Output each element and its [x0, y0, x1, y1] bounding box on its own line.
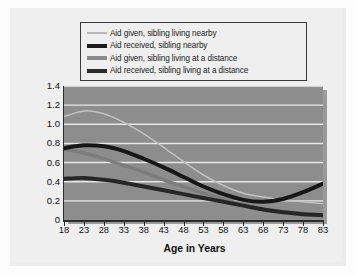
- x-axis-tick-label: 38: [134, 224, 154, 235]
- legend-item: Aid given, sibling living at a distance: [87, 52, 301, 65]
- y-axis-tick-label: 1.2: [34, 100, 60, 110]
- legend-swatch-line-icon: [87, 44, 107, 48]
- x-axis-tick-label: 58: [213, 224, 233, 235]
- y-axis-tick-label: 0.6: [34, 158, 60, 168]
- x-axis-tick-label: 43: [154, 224, 174, 235]
- y-axis-tick-label: 1.0: [34, 119, 60, 129]
- legend-item-label: Aid received, sibling nearby: [110, 41, 207, 50]
- legend-item-label: Aid given, sibling living nearby: [110, 29, 216, 38]
- x-axis-title: Age in Years: [62, 243, 327, 254]
- x-axis-tick-label: 23: [74, 224, 94, 235]
- legend-item: Aid given, sibling living nearby: [87, 27, 301, 40]
- x-axis-tick-label: 78: [293, 224, 313, 235]
- legend-item-label: Aid given, sibling living at a distance: [110, 54, 237, 63]
- data-series-line: [64, 145, 323, 202]
- legend-item: Aid received, sibling living at a distan…: [87, 65, 301, 78]
- y-axis-tick-label: 0.4: [34, 177, 60, 187]
- x-axis-tick-label: 68: [253, 224, 273, 235]
- legend-swatch-line-icon: [87, 32, 107, 34]
- chart-canvas: [64, 86, 323, 220]
- x-axis-tick-label: 53: [193, 224, 213, 235]
- x-axis-tick-label: 33: [114, 224, 134, 235]
- x-axis-tick-labels: 1823283338434853586368737883: [64, 224, 323, 238]
- chart-figure: Aid given, sibling living nearby Aid rec…: [0, 0, 356, 276]
- y-axis-tick-label: 1.4: [34, 81, 60, 91]
- y-axis-line: [63, 86, 64, 222]
- plot-area: [64, 86, 323, 220]
- chart-legend: Aid given, sibling living nearby Aid rec…: [80, 22, 307, 81]
- x-axis-tick-label: 28: [94, 224, 114, 235]
- x-axis-tick-label: 63: [233, 224, 253, 235]
- x-axis-tick-label: 73: [273, 224, 293, 235]
- legend-swatch-line-icon: [87, 56, 107, 60]
- x-axis-tick-label: 18: [54, 224, 74, 235]
- legend-item-label: Aid received, sibling living at a distan…: [110, 66, 248, 75]
- x-axis-tick-label: 48: [174, 224, 194, 235]
- y-axis-tick-label: 0.8: [34, 138, 60, 148]
- y-axis-tick-label: 0.2: [34, 196, 60, 206]
- legend-item: Aid received, sibling nearby: [87, 40, 301, 53]
- legend-swatch-line-icon: [87, 69, 107, 73]
- x-axis-tick-label: 83: [313, 224, 333, 235]
